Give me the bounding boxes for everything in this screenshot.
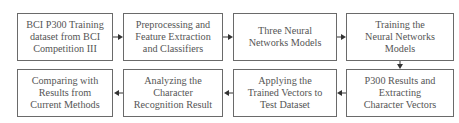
- arrow-right-icon: [223, 34, 233, 40]
- arrow-right-icon: [113, 34, 123, 40]
- arrows-layer: [0, 0, 459, 123]
- arrow-left-icon: [224, 90, 233, 96]
- arrow-left-icon: [337, 90, 346, 96]
- arrow-right-icon: [337, 34, 346, 40]
- arrow-down-icon: [397, 61, 403, 69]
- arrow-left-icon: [114, 90, 123, 96]
